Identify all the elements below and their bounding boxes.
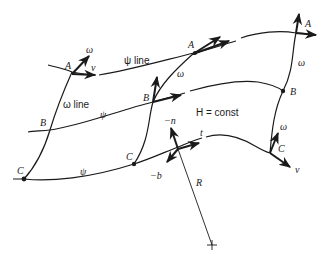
label-c-left: C: [17, 165, 24, 176]
minus-n-vector: [171, 128, 178, 149]
label-b-right: B: [290, 86, 296, 97]
label-c-right: C: [278, 143, 285, 154]
label-a-mid: A: [187, 39, 195, 50]
label-r: R: [195, 177, 202, 188]
label-omega-line: ω line: [63, 99, 90, 110]
radius-line: [178, 149, 212, 245]
label-psi-bottom: ψ: [80, 166, 87, 177]
label-psi-line: ψ line: [124, 55, 150, 66]
v-vector-b-mid: [153, 95, 181, 102]
label-minus-b: −b: [150, 170, 162, 181]
omega-vector-a-left: [72, 56, 89, 74]
label-omega-a-left: ω: [86, 44, 93, 55]
label-b-mid: B: [143, 92, 149, 103]
label-omega-c-right: ω: [280, 121, 287, 132]
label-minus-n: −n: [164, 115, 176, 126]
label-v-a-left: v: [91, 62, 96, 73]
label-omega-right-top: ω: [298, 57, 305, 68]
label-t: t: [200, 127, 203, 138]
point-c-mid: [132, 162, 136, 166]
point-a-mid: [193, 51, 197, 55]
label-omega-a-mid: ω: [177, 68, 184, 79]
label-c-mid: C: [126, 151, 133, 162]
v-vector-a-left: [72, 74, 95, 75]
v-vector-c-right: [270, 153, 290, 167]
omega-vector-a-right: [296, 14, 299, 33]
point-c-left: [22, 177, 27, 182]
label-h-const: H = const: [196, 107, 239, 118]
stream-surface-diagram: ω A v ψ line ω line B ψ C ψ A ω B A ω B …: [0, 0, 336, 260]
label-v-c-right: v: [295, 164, 300, 175]
label-psi-middle: ψ: [100, 109, 107, 120]
omega-line-left: [24, 72, 72, 179]
label-b-left: B: [40, 117, 46, 128]
point-b-right: [281, 89, 285, 93]
label-a-left: A: [64, 60, 72, 71]
v-vector-a-right: [296, 33, 316, 35]
psi-line-bottom: [13, 135, 270, 180]
label-a-right: A: [304, 18, 312, 29]
